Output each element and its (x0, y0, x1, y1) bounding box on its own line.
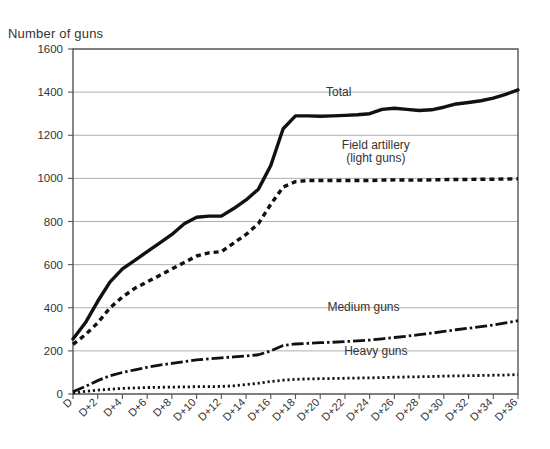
x-tick-label: D+16 (245, 396, 272, 423)
x-tick-label: D+18 (270, 396, 297, 423)
x-tick-label: D+34 (467, 396, 494, 423)
annotation-field-artillery-line2: (light guns) (346, 151, 405, 165)
y-tick-label: 400 (44, 302, 63, 314)
series-line-total (73, 90, 518, 339)
x-tick-label: D+14 (220, 396, 247, 423)
chart-container: Number of guns 0200400600800100012001400… (0, 0, 550, 449)
y-tick-label: 1600 (37, 43, 63, 55)
y-tick-label: 1000 (37, 172, 63, 184)
y-tick-label: 1400 (37, 86, 63, 98)
y-axis-ticks-group: 02004006008001000120014001600 (37, 43, 73, 400)
x-tick-label: D+22 (319, 396, 346, 423)
x-tick-label: D+10 (171, 396, 198, 423)
x-tick-label: D+24 (344, 396, 371, 423)
x-tick-label: D+28 (393, 396, 420, 423)
line-chart-plot: 02004006008001000120014001600 DD+2D+4D+6… (0, 0, 550, 449)
annotation-heavy-guns: Heavy guns (344, 344, 407, 358)
y-tick-label: 0 (57, 388, 63, 400)
x-tick-label: D+2 (76, 396, 99, 419)
annotation-field-artillery-line1: Field artillery (342, 138, 410, 152)
series-line-field-artillery (73, 179, 518, 345)
x-axis-ticks-group: DD+2D+4D+6D+8D+10D+12D+14D+16D+18D+20D+2… (60, 394, 519, 423)
series-line-heavy-guns (73, 375, 518, 393)
x-tick-label: D+36 (492, 396, 519, 423)
gridlines-group (73, 92, 518, 351)
x-tick-label: D+30 (418, 396, 445, 423)
y-tick-label: 1200 (37, 129, 63, 141)
x-tick-label: D+20 (294, 396, 321, 423)
x-tick-label: D+6 (126, 396, 149, 419)
annotation-total: Total (326, 85, 351, 99)
x-tick-label: D+4 (101, 396, 124, 419)
x-tick-label: D+26 (369, 396, 396, 423)
annotation-medium-guns: Medium guns (327, 300, 399, 314)
x-tick-label: D+12 (195, 396, 222, 423)
x-tick-label: D+8 (150, 396, 173, 419)
y-tick-label: 200 (44, 345, 63, 357)
y-tick-label: 800 (44, 216, 63, 228)
y-tick-label: 600 (44, 259, 63, 271)
x-tick-label: D+32 (443, 396, 470, 423)
series-line-medium-guns (73, 321, 518, 392)
